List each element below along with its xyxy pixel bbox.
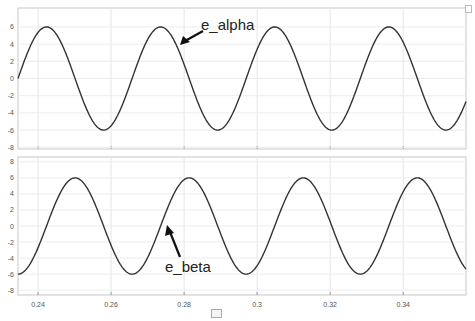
y-tick-label: 4 (10, 190, 14, 197)
axes-bottom-e-beta: 86420-2-4-6-80.240.260.280.30.320.34 (8, 157, 466, 308)
x-tick-label: 0.28 (177, 301, 191, 308)
legend-icon (211, 309, 222, 318)
legend-text (224, 308, 226, 315)
label-e-alpha: e_alpha (201, 16, 255, 33)
y-tick-label: 2 (10, 58, 14, 65)
y-tick-label: 0 (10, 223, 14, 230)
y-tick-label: 2 (10, 206, 14, 213)
y-tick-label: -4 (8, 255, 14, 262)
y-tick-label: 4 (10, 41, 14, 48)
x-tick-label: 0.32 (323, 301, 337, 308)
x-tick-label: 0.34 (396, 301, 410, 308)
x-tick-label: 0.3 (252, 301, 262, 308)
x-tick-label: 0.24 (31, 301, 45, 308)
figure: 6420-2-4-6-8 86420-2-4-6-80.240.260.280.… (0, 0, 475, 321)
y-tick-label: 0 (10, 75, 14, 82)
y-tick-label: -8 (8, 144, 14, 151)
x-tick-label: 0.26 (104, 301, 118, 308)
y-tick-label: -2 (8, 239, 14, 246)
y-tick-label: -6 (8, 127, 14, 134)
label-e-beta: e_beta (165, 258, 212, 275)
y-tick-label: 8 (10, 158, 14, 165)
y-tick-label: -8 (8, 287, 14, 294)
y-tick-label: -4 (8, 109, 14, 116)
y-tick-label: -6 (8, 271, 14, 278)
y-tick-label: -2 (8, 92, 14, 99)
expand-icon[interactable] (465, 5, 472, 13)
y-tick-label: 6 (10, 23, 14, 30)
y-tick-label: 6 (10, 174, 14, 181)
